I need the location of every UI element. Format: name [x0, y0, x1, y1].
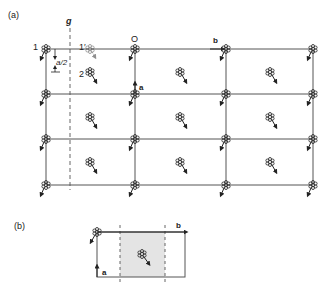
origin-label: O: [131, 34, 138, 44]
vector-b-label: b: [213, 36, 218, 45]
glide-label: g: [65, 16, 72, 26]
vector-a-label: a: [139, 83, 144, 92]
atom1-prime-label: 1′: [79, 42, 86, 52]
panel-b-label: (b): [14, 221, 25, 231]
figure: (a) g O 1 1′ 2 a/2 a b (b) a b: [0, 0, 336, 301]
cell-vector-a-label: a: [102, 268, 107, 277]
atom1-label: 1: [33, 42, 38, 52]
offset-label: a/2: [56, 58, 68, 67]
panel-a-label: (a): [8, 10, 19, 20]
atoms-layer: [41, 45, 317, 196]
atom2-label: 2: [79, 69, 84, 79]
cell-vector-b-label: b: [176, 221, 181, 230]
